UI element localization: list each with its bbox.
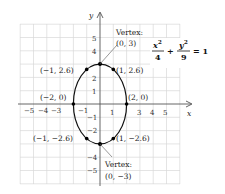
svg-text:2: 2 bbox=[184, 39, 188, 45]
svg-text:1: 1 bbox=[92, 88, 96, 96]
vertex-top-label: (0, 3) bbox=[116, 39, 136, 48]
svg-text:−2: −2 bbox=[87, 127, 97, 135]
svg-text:4: 4 bbox=[150, 109, 155, 117]
y-tick-labels: 5 4 2 1 −1 −2 −4 −5 bbox=[87, 35, 98, 175]
svg-text:9: 9 bbox=[181, 52, 187, 62]
y-axis-label: y bbox=[88, 11, 94, 20]
svg-text:4: 4 bbox=[155, 52, 161, 62]
svg-text:= 1: = 1 bbox=[193, 46, 208, 56]
point-label: (2, 0) bbox=[128, 93, 148, 102]
svg-text:4: 4 bbox=[92, 48, 97, 56]
svg-text:3: 3 bbox=[137, 109, 141, 117]
svg-text:1: 1 bbox=[110, 109, 114, 117]
vertex-top-caption: Vertex: bbox=[115, 28, 143, 37]
svg-text:+: + bbox=[167, 46, 174, 56]
point-label: (−1, −2.6) bbox=[33, 134, 73, 143]
svg-text:2: 2 bbox=[92, 75, 96, 83]
x-axis-label: x bbox=[187, 109, 192, 118]
svg-text:−1: −1 bbox=[87, 114, 97, 122]
svg-text:−3: −3 bbox=[51, 107, 61, 115]
ellipse-graph: x y −5 −4 −3 −1 1 3 4 5 5 4 2 1 −1 −2 −4… bbox=[0, 0, 225, 194]
point-label: (−2, 0) bbox=[40, 93, 67, 102]
svg-text:2: 2 bbox=[158, 39, 162, 45]
equation: x 2 4 + y 2 9 = 1 bbox=[150, 38, 216, 68]
svg-text:5: 5 bbox=[92, 35, 96, 43]
point-label: (1, −2.6) bbox=[116, 134, 150, 143]
svg-text:−5: −5 bbox=[87, 167, 97, 175]
svg-text:−5: −5 bbox=[24, 107, 34, 115]
point-label: (−1, 2.6) bbox=[40, 66, 74, 75]
vertex-bottom-label: (0, −3) bbox=[105, 172, 132, 181]
svg-text:−4: −4 bbox=[87, 154, 98, 162]
svg-text:−4: −4 bbox=[38, 107, 49, 115]
vertex-bottom-caption: Vertex: bbox=[104, 160, 132, 169]
svg-text:5: 5 bbox=[163, 109, 167, 117]
point-label: (1, 2.6) bbox=[116, 66, 143, 75]
